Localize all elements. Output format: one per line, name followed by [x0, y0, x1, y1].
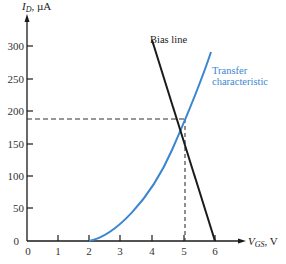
y-tick-label: 250 [8, 73, 25, 85]
x-tick-label: 4 [149, 245, 155, 257]
transfer-characteristic-chart: 0 50 100 150 200 250 300 0 1 2 3 4 5 6 I… [0, 0, 286, 264]
y-axis-title: ID, µA [21, 0, 51, 14]
y-axis-arrow-icon [25, 14, 30, 22]
x-tick-label: 1 [55, 245, 61, 257]
y-tick-label: 50 [13, 202, 25, 214]
x-tick-label: 5 [181, 245, 187, 257]
x-tick-label: 0 [25, 245, 31, 257]
x-tick-label: 3 [117, 245, 123, 257]
operating-point-projections [27, 119, 185, 241]
y-tick-label: 0 [14, 235, 20, 247]
x-ticks: 0 1 2 3 4 5 6 [25, 235, 218, 257]
y-tick-label: 300 [8, 40, 25, 52]
y-tick-label: 100 [8, 170, 25, 182]
transfer-label-line2: characteristic [212, 76, 268, 87]
x-tick-label: 6 [212, 245, 218, 257]
y-ticks: 0 50 100 150 200 250 300 [8, 40, 34, 247]
transfer-characteristic-curve [89, 52, 211, 241]
x-axis-arrow-icon [238, 239, 246, 244]
transfer-label-line1: Transfer [212, 65, 248, 76]
x-axis-title: VGS, V [248, 235, 278, 249]
y-tick-label: 200 [8, 105, 25, 117]
bias-line-label: Bias line [150, 34, 187, 45]
x-tick-label: 2 [86, 245, 92, 257]
y-tick-label: 150 [8, 138, 25, 150]
